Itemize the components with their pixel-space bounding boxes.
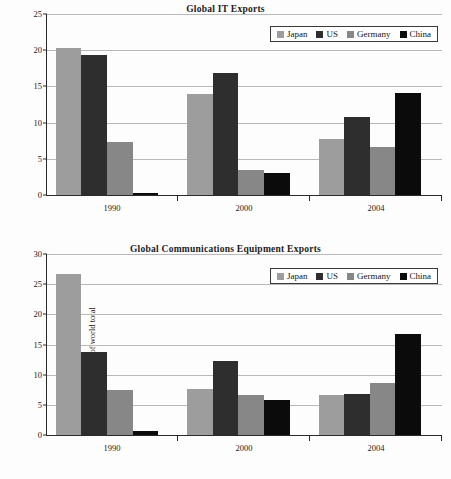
legend-swatch-china-icon [400,273,407,280]
y-tick-mark [43,86,47,87]
plot-wrap: % share of world total 0510152025 JapanU… [46,14,442,196]
y-tick-mark [43,50,47,51]
y-tick-label: 0 [38,190,42,200]
y-tick-mark [43,14,47,15]
bar-china-1990 [133,193,159,195]
legend-label: Japan [287,29,308,39]
bar-us-1990 [81,352,107,435]
bar-germany-2000 [238,170,264,195]
legend-swatch-germany-icon [347,31,354,38]
legend-item-germany: Germany [347,271,391,281]
y-tick-label: 5 [38,154,42,164]
legend: JapanUSGermanyChina [270,268,438,284]
x-tick-cell [310,436,442,441]
x-tick-label-2004: 2004 [310,203,442,213]
bar-germany-1990 [107,142,133,195]
y-tick-mark [43,284,47,285]
y-tick-label: 25 [34,9,43,19]
y-tick-label: 0 [38,430,42,440]
x-tick-marks [46,436,442,441]
bar-japan-2000 [187,94,213,195]
y-tick-label: 20 [34,309,43,319]
x-tick-mark [441,196,442,201]
bars [56,14,158,195]
x-tick-labels: 199020002004 [46,203,442,213]
x-tick-label-2000: 2000 [178,203,310,213]
bar-china-2000 [264,173,290,195]
bar-us-1990 [81,55,107,195]
bar-group-1990 [48,254,179,435]
x-tick-cell [46,436,178,441]
bar-japan-1990 [56,48,82,195]
legend-item-china: China [400,271,432,281]
bars [56,254,158,435]
x-axis: 199020002004 [46,196,442,222]
y-tick-label: 10 [34,118,43,128]
legend-item-china: China [400,29,432,39]
legend-label: Germany [357,29,391,39]
x-tick-label-2004: 2004 [310,443,442,453]
bar-us-2004 [344,394,370,435]
bar-us-2000 [213,361,239,435]
plot-wrap: % share of world total 051015202530 Japa… [46,254,442,436]
bar-japan-2000 [187,389,213,435]
bar-china-2004 [395,334,421,435]
y-tick-label: 15 [34,81,43,91]
x-tick-marks [46,196,442,201]
legend-item-japan: Japan [277,29,308,39]
x-tick-cell [178,436,310,441]
y-tick-label: 10 [34,370,43,380]
y-tick-label: 5 [38,400,42,410]
x-tick-labels: 199020002004 [46,443,442,453]
legend-swatch-china-icon [400,31,407,38]
chart-global-communications-equipment-exports: Global Communications Equipment Exports … [0,240,451,479]
chart-title: Global IT Exports [0,0,451,14]
legend-item-germany: Germany [347,29,391,39]
y-tick-mark [43,122,47,123]
y-tick-label: 15 [34,340,43,350]
legend-swatch-us-icon [316,273,323,280]
chart-title: Global Communications Equipment Exports [0,240,451,254]
x-axis: 199020002004 [46,436,442,462]
y-tick-label: 20 [34,45,43,55]
bar-germany-1990 [107,390,133,435]
x-tick-cell [310,196,442,201]
legend-label: Germany [357,271,391,281]
y-tick-label: 25 [34,279,43,289]
y-tick-mark [43,158,47,159]
bar-japan-2004 [319,395,345,435]
legend-item-japan: Japan [277,271,308,281]
legend-item-us: US [316,29,338,39]
legend-label: Japan [287,271,308,281]
x-tick-mark [441,436,442,441]
x-tick-label-1990: 1990 [46,443,178,453]
y-tick-mark [43,404,47,405]
figure-page: Global IT Exports % share of world total… [0,0,451,479]
bar-us-2004 [344,117,370,195]
y-tick-mark [43,374,47,375]
x-tick-label-2000: 2000 [178,443,310,453]
legend-label: US [326,271,338,281]
x-tick-cell [46,196,178,201]
bar-germany-2000 [238,395,264,435]
legend-label: China [410,29,432,39]
bar-group-1990 [48,14,179,195]
bar-china-1990 [133,431,159,435]
bar-japan-2004 [319,139,345,195]
legend: JapanUSGermanyChina [270,26,438,42]
bar-us-2000 [213,73,239,195]
y-tick-mark [43,344,47,345]
legend-swatch-us-icon [316,31,323,38]
x-tick-cell [178,196,310,201]
y-tick-mark [43,254,47,255]
legend-item-us: US [316,271,338,281]
y-tick-mark [43,314,47,315]
legend-label: US [326,29,338,39]
legend-swatch-japan-icon [277,273,284,280]
legend-label: China [410,271,432,281]
bar-germany-2004 [370,383,396,435]
bar-china-2004 [395,93,421,195]
bar-china-2000 [264,400,290,435]
legend-swatch-japan-icon [277,31,284,38]
chart-global-it-exports: Global IT Exports % share of world total… [0,0,451,240]
